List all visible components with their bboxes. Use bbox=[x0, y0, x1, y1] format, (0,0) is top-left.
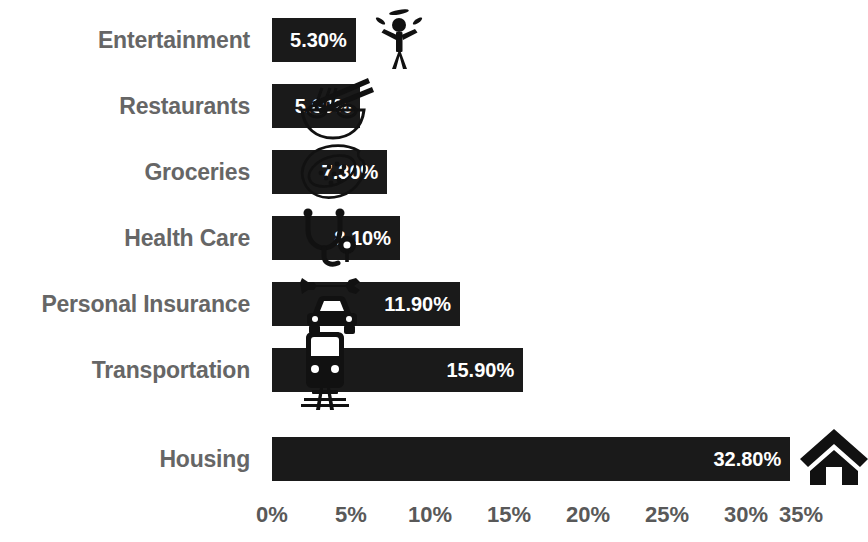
x-tick-label: 10% bbox=[385, 502, 475, 528]
x-tick-label: 35% bbox=[756, 502, 846, 528]
category-label: Groceries bbox=[0, 150, 250, 194]
house-icon bbox=[800, 429, 868, 485]
bar-container: 15.90% bbox=[272, 348, 523, 392]
bar-container: 32.80% bbox=[272, 437, 790, 481]
category-label: Restaurants bbox=[0, 84, 250, 128]
bar-value-label: 32.80% bbox=[713, 437, 781, 481]
bar-value-label: 11.90% bbox=[384, 282, 451, 326]
x-tick-label: 25% bbox=[622, 502, 712, 528]
bar-container: 5.60% bbox=[272, 84, 360, 128]
chart-row: Restaurants 5.60% bbox=[0, 84, 859, 128]
bar-value-label: 15.90% bbox=[446, 348, 514, 392]
category-label: Housing bbox=[0, 437, 250, 481]
x-tick-label: 5% bbox=[306, 502, 396, 528]
juggler-icon bbox=[370, 9, 428, 71]
bar-container: 7.30% bbox=[272, 150, 387, 194]
chart-row: Entertainment 5.30% bbox=[0, 18, 859, 62]
papaya-fruit-icon bbox=[296, 142, 372, 202]
chart-row: Personal Insurance 11.90% bbox=[0, 282, 859, 326]
bar-value-label: 5.30% bbox=[290, 18, 347, 62]
chart-row: Health Care 8.10% bbox=[0, 216, 859, 260]
x-tick-label: 20% bbox=[543, 502, 633, 528]
car-wrench-icon bbox=[294, 271, 368, 337]
train-icon bbox=[296, 332, 354, 410]
chart-row: Groceries 7.30% bbox=[0, 150, 859, 194]
bar-container: 5.30% bbox=[272, 18, 356, 62]
chart-row: Transportation 15.90% bbox=[0, 348, 859, 392]
bar-container: 11.90% bbox=[272, 282, 460, 326]
plot-area: Entertainment 5.30% bbox=[0, 0, 859, 500]
x-tick-label: 0% bbox=[227, 502, 317, 528]
category-label: Personal Insurance bbox=[0, 282, 250, 326]
category-label: Health Care bbox=[0, 216, 250, 260]
x-axis: 0% 5% 10% 15% 20% 25% 30% 35% bbox=[0, 500, 859, 542]
chart-row: Housing 32.80% bbox=[0, 437, 859, 481]
bar[interactable]: 5.30% bbox=[272, 18, 356, 62]
stethoscope-icon bbox=[298, 208, 358, 268]
bar-container: 8.10% bbox=[272, 216, 400, 260]
bar[interactable]: 32.80% bbox=[272, 437, 790, 481]
x-tick-label: 15% bbox=[464, 502, 554, 528]
category-label: Entertainment bbox=[0, 18, 250, 62]
noodle-bowl-icon bbox=[290, 70, 376, 142]
category-label: Transportation bbox=[0, 348, 250, 392]
